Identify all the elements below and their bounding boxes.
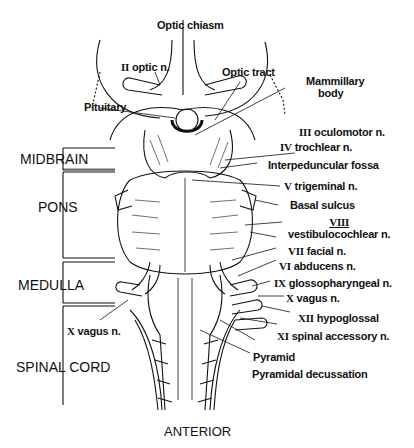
label-facial-nerve: VII facial n. bbox=[288, 245, 346, 257]
label-vagus-nerve-right: X vagus n. bbox=[286, 292, 340, 304]
label-pyramid: Pyramid bbox=[253, 351, 295, 363]
label-pyramidal-decussation: Pyramidal decussation bbox=[252, 368, 368, 380]
label-oculomotor-nerve: III oculomotor n. bbox=[299, 126, 385, 138]
orientation-label-anterior: ANTERIOR bbox=[164, 424, 231, 439]
region-label-medulla: MEDULLA bbox=[18, 278, 84, 293]
label-interpeduncular-fossa: Interpeduncular fossa bbox=[268, 159, 379, 171]
label-vagus-nerve-left: X vagus n. bbox=[67, 325, 121, 337]
label-optic-tract: Optic tract bbox=[222, 66, 275, 78]
label-hypoglossal-nerve: XII hypoglossal bbox=[298, 312, 379, 324]
region-label-pons: PONS bbox=[38, 200, 78, 215]
label-vestibulocochlear-nerve: VIIIvestibulocochlear n. bbox=[288, 216, 390, 240]
label-trochlear-nerve: IV trochlear n. bbox=[280, 141, 352, 153]
region-label-midbrain: MIDBRAIN bbox=[20, 152, 88, 167]
label-glossopharyngeal-nerve: IX glossopharyngeal n. bbox=[274, 277, 392, 289]
label-optic-chiasm: Optic chiasm bbox=[157, 19, 224, 31]
label-pituitary: Pituitary bbox=[84, 101, 126, 113]
label-spinal-accessory-nerve: XI spinal accessory n. bbox=[277, 330, 389, 342]
label-basal-sulcus: Basal sulcus bbox=[290, 199, 355, 211]
label-optic-nerve: II optic n. bbox=[121, 61, 170, 73]
region-label-spinal-cord: SPINAL CORD bbox=[16, 360, 110, 375]
label-mammillary-body: Mammillarybody bbox=[306, 75, 365, 99]
label-abducens-nerve: VI abducens n. bbox=[279, 260, 356, 272]
label-trigeminal-nerve: V trigeminal n. bbox=[284, 180, 357, 192]
